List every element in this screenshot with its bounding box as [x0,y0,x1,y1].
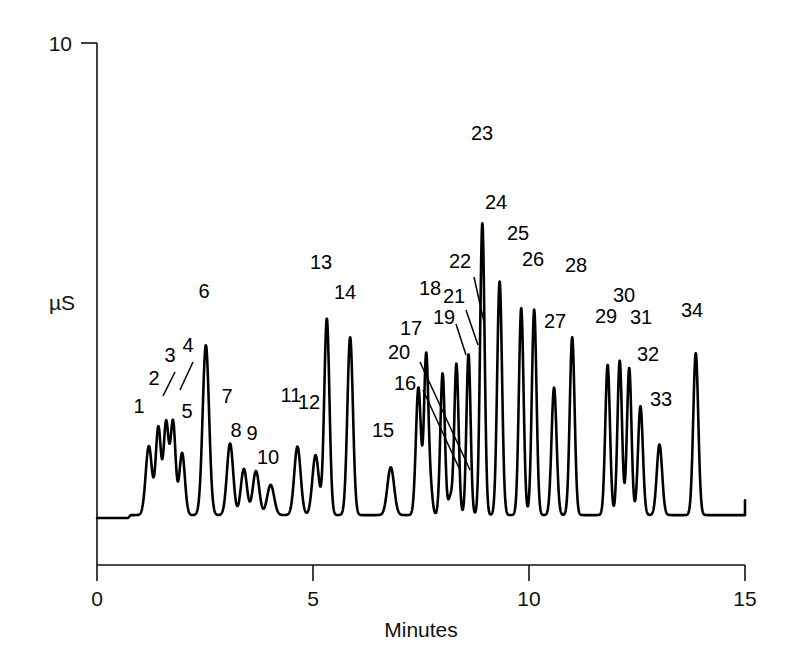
x-tick-label: 10 [517,587,540,610]
chromatogram-chart: 05101510 Minutes µS 12345678910111213141… [0,0,788,667]
peak-label-6: 6 [198,280,209,302]
peak-label-30: 30 [613,284,635,306]
peak-label-9: 9 [246,422,257,444]
x-tick-label: 0 [91,587,103,610]
peak-leader-line [456,324,466,355]
peak-leader-line [466,310,478,345]
peak-label-22: 22 [449,250,471,272]
peak-label-25: 25 [507,222,529,244]
peak-label-15: 15 [372,419,394,441]
peak-label-19: 19 [433,306,455,328]
peak-label-27: 27 [544,310,566,332]
peak-leader-line [474,277,484,322]
peak-label-16: 16 [394,372,416,394]
peak-label-4: 4 [182,334,193,356]
chromatogram-figure: 05101510 Minutes µS 12345678910111213141… [0,0,788,667]
peak-label-33: 33 [650,388,672,410]
x-tick-label: 5 [307,587,319,610]
peak-label-17: 17 [400,317,422,339]
peak-label-12: 12 [298,391,320,413]
peak-label-2: 2 [148,367,159,389]
peak-label-26: 26 [522,248,544,270]
peak-label-20: 20 [388,341,410,363]
peak-label-10: 10 [257,446,279,468]
peak-label-13: 13 [310,251,332,273]
peak-label-32: 32 [637,343,659,365]
peak-label-28: 28 [565,254,587,276]
x-tick-label: 15 [733,587,756,610]
peak-label-3: 3 [164,344,175,366]
peak-label-18: 18 [419,277,441,299]
peak-label-1: 1 [133,395,144,417]
peak-leader-line [163,372,175,396]
peak-leader-line [180,362,193,390]
peak-label-23: 23 [471,122,493,144]
peak-label-34: 34 [681,299,703,321]
x-axis-title: Minutes [384,618,458,641]
peak-label-7: 7 [221,385,232,407]
peak-label-24: 24 [485,191,507,213]
y-axis-title: µS [49,291,75,314]
peak-label-31: 31 [630,306,652,328]
peak-label-21: 21 [443,285,465,307]
peak-label-29: 29 [595,305,617,327]
peak-label-14: 14 [334,281,356,303]
chromatogram-trace [97,223,745,518]
y-tick-label: 10 [49,32,72,55]
peak-label-5: 5 [181,400,192,422]
peak-label-8: 8 [230,419,241,441]
